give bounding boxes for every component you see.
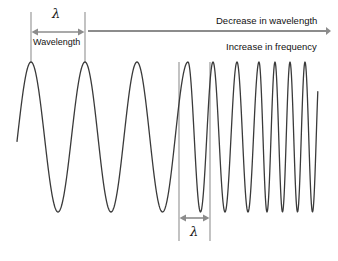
lambda-symbol-short: λ bbox=[190, 225, 198, 238]
short-wavelength-measure-arrow bbox=[180, 215, 210, 222]
chirped-wave-curve bbox=[17, 62, 318, 212]
long-wavelength-arrow-head-right-icon bbox=[78, 29, 85, 36]
long-wavelength-arrow-head-left-icon bbox=[32, 29, 39, 36]
wavelength-caption: Wavelength bbox=[33, 38, 80, 47]
short-wavelength-arrow-head-right-icon bbox=[203, 215, 210, 222]
trend-arrow bbox=[88, 27, 331, 35]
short-wavelength-arrow-head-left-icon bbox=[180, 215, 187, 222]
decrease-in-wavelength-label: Decrease in wavelength bbox=[216, 16, 317, 26]
lambda-symbol-long: λ bbox=[52, 7, 60, 20]
increase-in-frequency-label: Increase in frequency bbox=[226, 42, 317, 52]
trend-arrow-head-icon bbox=[326, 27, 331, 35]
wavelength-frequency-diagram: λ Wavelength Decrease in wavelength Incr… bbox=[0, 0, 338, 261]
long-wavelength-measure-arrow bbox=[32, 29, 85, 36]
